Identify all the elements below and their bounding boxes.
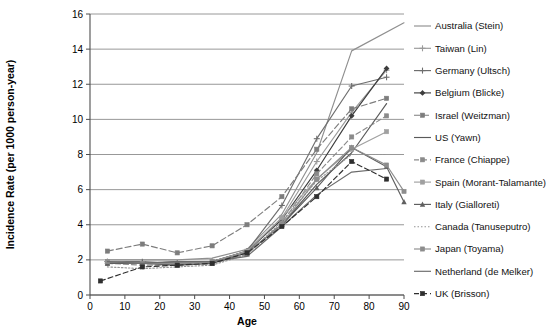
series-marker: [315, 195, 319, 199]
legend-label: France (Chiappe): [435, 154, 510, 165]
series-marker: [401, 199, 406, 204]
series-marker: [280, 195, 284, 199]
series-marker: [384, 114, 388, 118]
x-tick-label-60: 60: [294, 301, 306, 312]
x-tick-label-30: 30: [189, 301, 201, 312]
series-line: [107, 132, 386, 264]
series-marker: [420, 158, 424, 162]
series-marker: [280, 224, 284, 228]
legend-item-taiwan-lin[interactable]: Taiwan (Lin): [414, 43, 487, 54]
series-marker: [210, 244, 214, 248]
legend-item-uk-brisson[interactable]: UK (Brisson): [414, 288, 489, 299]
legend-item-israel-weitzman[interactable]: Israel (Weitzman): [414, 110, 510, 121]
y-tick-label-8: 8: [77, 149, 83, 160]
x-tick-label-10: 10: [119, 301, 131, 312]
legend-item-germany-ultsch[interactable]: Germany (Ultsch): [414, 65, 510, 76]
x-tick-label-50: 50: [259, 301, 271, 312]
series-marker: [384, 96, 388, 100]
x-tick-label-70: 70: [329, 301, 341, 312]
series-marker: [420, 113, 424, 117]
series-marker: [350, 135, 354, 139]
series-marker: [402, 189, 406, 193]
legend-item-france-chiappe[interactable]: France (Chiappe): [414, 154, 510, 165]
series-marker: [350, 159, 354, 163]
y-tick-label-2: 2: [77, 254, 83, 265]
series-marker: [140, 265, 144, 269]
y-tick-label-10: 10: [72, 114, 84, 125]
series-marker: [105, 249, 109, 253]
y-tick-label-4: 4: [77, 219, 83, 230]
series-line: [107, 70, 386, 263]
legend-item-us-yawn[interactable]: US (Yawn): [414, 132, 481, 143]
series-line: [107, 77, 386, 263]
legend-label: Australia (Stein): [435, 20, 503, 31]
series-marker: [210, 261, 214, 265]
legend-label: Canada (Tanuseputro): [435, 221, 530, 232]
legend-item-spain-morant-talamante[interactable]: Spain (Morant-Talamante): [414, 177, 546, 188]
series-marker: [245, 223, 249, 227]
series-germany-ultsch: [104, 74, 389, 266]
chart-canvas: 02468101214160102030405060708090AgeIncid…: [0, 0, 557, 336]
legend-label: Japan (Toyama): [435, 243, 504, 254]
series-marker: [420, 292, 424, 296]
series-marker: [315, 177, 319, 181]
series-marker: [420, 180, 424, 184]
legend-label: Italy (Gialloreti): [435, 199, 500, 210]
x-tick-label-90: 90: [398, 301, 410, 312]
legend-label: Germany (Ultsch): [435, 65, 510, 76]
legend-item-belgium-blicke[interactable]: Belgium (Blicke): [414, 87, 504, 98]
legend-item-japan-toyama[interactable]: Japan (Toyama): [414, 243, 504, 254]
series-uk-brisson: [98, 159, 388, 283]
legend-item-netherland-de-melker[interactable]: Netherland (de Melker): [414, 266, 533, 277]
series-marker: [315, 147, 319, 151]
series-marker: [420, 90, 426, 96]
series-france-chiappe: [105, 114, 388, 267]
x-tick-label-40: 40: [224, 301, 236, 312]
series-marker: [315, 172, 319, 176]
y-tick-label-16: 16: [72, 9, 84, 20]
series-line: [107, 116, 386, 265]
series-marker: [384, 163, 388, 167]
legend-label: Netherland (de Melker): [435, 266, 533, 277]
legend-label: UK (Brisson): [435, 288, 489, 299]
x-axis-title: Age: [237, 315, 257, 327]
series-line: [107, 68, 386, 263]
x-tick-label-80: 80: [364, 301, 376, 312]
y-tick-label-14: 14: [72, 44, 84, 55]
series-marker: [350, 145, 354, 149]
y-tick-label-12: 12: [72, 79, 84, 90]
legend-label: Taiwan (Lin): [435, 43, 487, 54]
legend-label: Israel (Weitzman): [435, 110, 510, 121]
legend-item-canada-tanuseputro[interactable]: Canada (Tanuseputro): [414, 221, 530, 232]
series-marker: [384, 130, 388, 134]
series-marker: [98, 279, 102, 283]
x-tick-label-20: 20: [154, 301, 166, 312]
y-axis-title: Incidence Rate (per 1000 person-year): [4, 60, 16, 250]
series-marker: [175, 263, 179, 267]
y-tick-label-6: 6: [77, 184, 83, 195]
incidence-rate-line-chart: 02468101214160102030405060708090AgeIncid…: [0, 0, 557, 336]
series-marker: [420, 247, 424, 251]
series-marker: [175, 251, 179, 255]
legend-item-italy-gialloreti[interactable]: Italy (Gialloreti): [414, 199, 500, 210]
legend-item-australia-stein[interactable]: Australia (Stein): [414, 20, 503, 31]
series-marker: [140, 242, 144, 246]
y-tick-label-0: 0: [77, 290, 83, 301]
series-marker: [350, 107, 354, 111]
legend-label: Belgium (Blicke): [435, 87, 504, 98]
legend-label: Spain (Morant-Talamante): [435, 177, 546, 188]
series-marker: [384, 177, 388, 181]
legend-label: US (Yawn): [435, 132, 481, 143]
series-marker: [245, 251, 249, 255]
x-tick-label-0: 0: [87, 301, 93, 312]
